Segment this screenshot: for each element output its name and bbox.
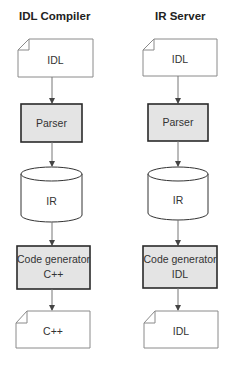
generator-label-right-line2: IDL	[143, 267, 217, 281]
generator-label-left-line2: C++	[17, 267, 90, 281]
input-label-left: IDL	[18, 53, 93, 67]
generator-label-right-line1: Code generator	[143, 252, 217, 266]
output-label-left: C++	[16, 324, 90, 338]
generator-label-left-line1: Code generator	[17, 252, 90, 266]
output-label-right: IDL	[144, 324, 218, 338]
input-label-right: IDL	[143, 52, 217, 66]
ir-label-left: IR	[21, 194, 82, 208]
parser-label-left: Parser	[21, 116, 82, 130]
ir-label-right: IR	[148, 193, 208, 207]
parser-label-right: Parser	[148, 115, 208, 129]
